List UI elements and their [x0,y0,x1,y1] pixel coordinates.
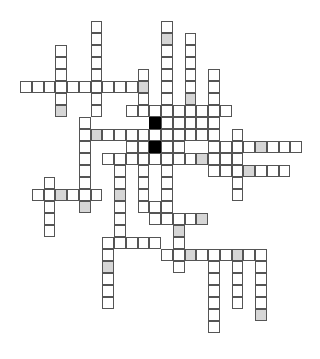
crossword-cell[interactable] [173,153,185,165]
crossword-cell[interactable] [220,141,232,153]
crossword-cell[interactable] [138,201,150,213]
crossword-cell[interactable] [138,165,150,177]
shaded-cell[interactable] [196,213,208,225]
shaded-cell[interactable] [255,141,267,153]
shaded-cell[interactable] [138,81,150,93]
crossword-cell[interactable] [102,153,114,165]
crossword-cell[interactable] [149,213,161,225]
shaded-cell[interactable] [185,249,197,261]
crossword-cell[interactable] [255,273,267,285]
crossword-cell[interactable] [91,105,103,117]
crossword-cell[interactable] [208,105,220,117]
crossword-cell[interactable] [79,189,91,201]
crossword-cell[interactable] [161,165,173,177]
crossword-cell[interactable] [208,249,220,261]
crossword-cell[interactable] [91,93,103,105]
crossword-cell[interactable] [79,129,91,141]
crossword-cell[interactable] [232,273,244,285]
crossword-cell[interactable] [161,249,173,261]
crossword-cell[interactable] [55,57,67,69]
shaded-cell[interactable] [91,129,103,141]
crossword-cell[interactable] [173,141,185,153]
crossword-cell[interactable] [208,81,220,93]
crossword-cell[interactable] [220,165,232,177]
crossword-cell[interactable] [185,213,197,225]
crossword-cell[interactable] [208,129,220,141]
crossword-cell[interactable] [173,105,185,117]
crossword-cell[interactable] [55,69,67,81]
crossword-cell[interactable] [55,93,67,105]
crossword-cell[interactable] [161,93,173,105]
crossword-cell[interactable] [185,81,197,93]
crossword-cell[interactable] [185,117,197,129]
crossword-cell[interactable] [232,177,244,189]
shaded-cell[interactable] [243,165,255,177]
crossword-cell[interactable] [232,141,244,153]
crossword-cell[interactable] [126,81,138,93]
shaded-cell[interactable] [55,189,67,201]
crossword-cell[interactable] [161,81,173,93]
crossword-cell[interactable] [126,141,138,153]
crossword-cell[interactable] [267,141,279,153]
crossword-cell[interactable] [243,141,255,153]
crossword-cell[interactable] [114,81,126,93]
shaded-cell[interactable] [185,93,197,105]
crossword-cell[interactable] [185,45,197,57]
crossword-cell[interactable] [126,105,138,117]
crossword-cell[interactable] [208,165,220,177]
crossword-cell[interactable] [279,165,291,177]
crossword-cell[interactable] [161,213,173,225]
crossword-cell[interactable] [149,201,161,213]
crossword-cell[interactable] [114,237,126,249]
crossword-cell[interactable] [173,249,185,261]
crossword-cell[interactable] [208,93,220,105]
crossword-cell[interactable] [79,141,91,153]
crossword-cell[interactable] [44,81,56,93]
crossword-cell[interactable] [232,297,244,309]
crossword-cell[interactable] [279,141,291,153]
crossword-cell[interactable] [173,237,185,249]
crossword-cell[interactable] [138,141,150,153]
crossword-cell[interactable] [138,177,150,189]
crossword-cell[interactable] [67,81,79,93]
crossword-cell[interactable] [208,153,220,165]
crossword-cell[interactable] [67,189,79,201]
crossword-cell[interactable] [126,129,138,141]
crossword-cell[interactable] [255,249,267,261]
crossword-cell[interactable] [208,141,220,153]
shaded-cell[interactable] [55,105,67,117]
crossword-cell[interactable] [79,117,91,129]
crossword-cell[interactable] [185,69,197,81]
crossword-cell[interactable] [220,105,232,117]
crossword-cell[interactable] [185,33,197,45]
crossword-cell[interactable] [138,69,150,81]
crossword-cell[interactable] [114,225,126,237]
crossword-cell[interactable] [79,165,91,177]
crossword-cell[interactable] [114,177,126,189]
crossword-cell[interactable] [126,237,138,249]
crossword-cell[interactable] [102,249,114,261]
crossword-cell[interactable] [161,201,173,213]
crossword-cell[interactable] [255,297,267,309]
crossword-cell[interactable] [220,249,232,261]
shaded-cell[interactable] [255,309,267,321]
crossword-cell[interactable] [138,153,150,165]
crossword-cell[interactable] [79,81,91,93]
shaded-cell[interactable] [196,153,208,165]
crossword-cell[interactable] [32,189,44,201]
crossword-cell[interactable] [149,129,161,141]
crossword-cell[interactable] [232,129,244,141]
crossword-cell[interactable] [44,201,56,213]
shaded-cell[interactable] [232,249,244,261]
crossword-cell[interactable] [44,177,56,189]
crossword-cell[interactable] [79,177,91,189]
crossword-cell[interactable] [149,105,161,117]
crossword-cell[interactable] [91,57,103,69]
crossword-cell[interactable] [102,237,114,249]
crossword-cell[interactable] [114,129,126,141]
crossword-cell[interactable] [20,81,32,93]
crossword-cell[interactable] [32,81,44,93]
crossword-cell[interactable] [44,225,56,237]
crossword-cell[interactable] [232,189,244,201]
crossword-cell[interactable] [267,165,279,177]
